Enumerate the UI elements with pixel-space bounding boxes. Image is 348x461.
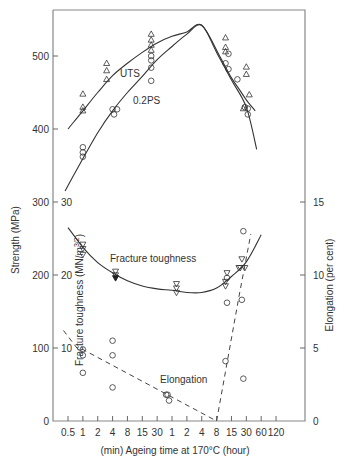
uts-marker-triangle-up [104, 60, 110, 65]
0-2ps-marker-circle [111, 112, 117, 118]
x-tick-label: 15 [137, 427, 149, 438]
elongation-marker-circle [110, 338, 116, 344]
x-tick-label: 4 [110, 427, 116, 438]
y-right-tick-label: 0 [313, 416, 319, 427]
plot-frame [53, 10, 305, 421]
0-2ps-marker-circle [148, 78, 154, 84]
y-right-tick-label: 10 [313, 270, 325, 281]
x-tick-label: 2 [184, 427, 190, 438]
y-right-tick-label: 5 [313, 343, 319, 354]
0-2ps-marker-circle [235, 77, 241, 83]
y-right-axis-label: Elongation (per cent) [324, 239, 335, 332]
y-inner-tick-label: 10 [61, 343, 73, 354]
elongation-marker-circle [239, 297, 245, 303]
elongation-marker-circle [110, 353, 116, 359]
y-right-axis-ticks: 051015 [300, 197, 325, 427]
annotation-02ps: 0.2PS [133, 95, 161, 106]
x-axis-ticks: 0.5124815301248153060120 [61, 416, 285, 438]
elongation-marker-circle [80, 370, 86, 376]
fracture-toughness-marker-triangle-down [239, 257, 245, 262]
uts-marker-triangle-up [223, 35, 229, 40]
x-tick-label: 60 [256, 427, 268, 438]
x-tick-label: 1 [80, 427, 86, 438]
x-tick-label: 30 [241, 427, 253, 438]
x-tick-label: 4 [199, 427, 205, 438]
annotation-elongation: Elongation [160, 374, 207, 385]
annotation-uts: UTS [120, 68, 140, 79]
chart: 0.5124815301248153060120 010020030040050… [0, 0, 348, 461]
uts-marker-triangle-up [243, 71, 249, 76]
y-inner-tick-label: 30 [61, 197, 73, 208]
x-tick-label: 120 [268, 427, 285, 438]
x-tick-label: 0.5 [61, 427, 75, 438]
x-tick-label: 30 [152, 427, 164, 438]
uts-marker-triangle-up [246, 91, 252, 96]
uts-marker-triangle-up [104, 67, 110, 72]
x-axis-label: (min) Ageing time at 170°C (hour) [100, 445, 249, 456]
uts-marker-triangle-up [148, 31, 154, 36]
y-right-tick-label: 15 [313, 197, 325, 208]
uts-marker-triangle-up [104, 76, 110, 81]
x-tick-label: 2 [95, 427, 101, 438]
y-left-tick-label: 500 [32, 51, 49, 62]
y-left-tick-label: 0 [43, 416, 49, 427]
uts-marker-triangle-up [243, 64, 249, 69]
annotation-fracture-toughness: Fracture toughness [110, 253, 196, 264]
x-tick-label: 1 [169, 427, 175, 438]
y-left-tick-label: 200 [32, 270, 49, 281]
y-left-tick-label: 300 [32, 197, 49, 208]
x-tick-label: 8 [125, 427, 131, 438]
x-tick-label: 15 [226, 427, 238, 438]
elongation-marker-circle [241, 228, 247, 234]
y-left-tick-label: 400 [32, 124, 49, 135]
elongation-marker-circle [166, 398, 172, 404]
series-markers [80, 31, 252, 403]
uts-marker-triangle-up [80, 104, 86, 109]
elongation-marker-circle [241, 376, 247, 382]
y-inner-axis-label: Fracture toughness (MN/m3/2) [73, 234, 85, 366]
fracture-toughness-marker-triangle-down [113, 276, 119, 281]
y-left-tick-label: 100 [32, 343, 49, 354]
y-inner-axis-label-close: ) [74, 234, 85, 237]
y-inner-tick-label: 20 [61, 270, 73, 281]
series-curves [64, 24, 262, 421]
elongation-marker-circle [223, 358, 229, 364]
elongation-marker-circle [110, 385, 116, 391]
y-left-axis-label: Strength (MPa) [10, 206, 21, 274]
uts-marker-triangle-up [80, 91, 86, 96]
elongation-marker-circle [224, 300, 230, 306]
y-inner-axis-label-sup: 3/2 [73, 237, 80, 247]
y-inner-axis-label-main: Fracture toughness (MN/m [74, 247, 85, 366]
x-tick-label: 8 [214, 427, 220, 438]
